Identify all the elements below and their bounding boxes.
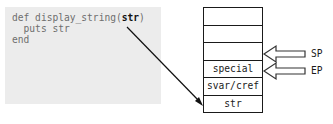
diagram-arrows xyxy=(0,0,333,124)
ep-label: EP xyxy=(311,65,323,76)
argument-arrow-icon xyxy=(127,27,203,106)
sp-label: SP xyxy=(311,48,323,59)
sp-arrow-icon xyxy=(264,46,305,62)
ep-arrow-icon xyxy=(264,63,305,79)
